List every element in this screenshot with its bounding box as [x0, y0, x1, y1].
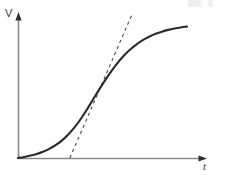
sigmoid-curve: [18, 27, 187, 158]
y-axis-arrowhead: [15, 12, 21, 21]
plot-area: [0, 0, 227, 175]
x-axis-label: t: [203, 161, 206, 172]
figure-canvas: V t: [0, 0, 227, 175]
y-axis-label: V: [5, 8, 12, 19]
